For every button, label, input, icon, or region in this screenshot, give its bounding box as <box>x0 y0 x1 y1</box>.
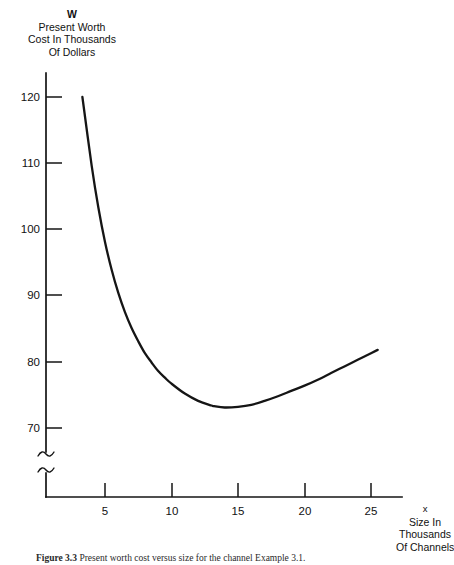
y-axis-symbol: W <box>6 8 138 21</box>
x-axis-title: x Size In Thousands Of Channels <box>396 503 454 553</box>
x-tick-label-15: 15 <box>232 505 245 517</box>
y-tick-label-110: 110 <box>22 157 40 169</box>
figure-caption-text: Present worth cost versus size for the c… <box>79 553 305 563</box>
y-axis-title-line-3: Of Dollars <box>6 46 138 59</box>
axis-break-squiggle-icon-lower <box>38 468 54 472</box>
y-tick-label-100: 100 <box>21 223 40 235</box>
x-axis-title-line-1: Size In <box>396 516 454 529</box>
y-tick-label-70: 70 <box>27 422 40 434</box>
y-tick-label-80: 80 <box>27 356 40 368</box>
present-worth-cost-chart: 120 110 100 90 80 70 5 10 15 20 25 <box>0 0 454 565</box>
y-axis-title-line-2: Cost In Thousands <box>6 33 138 46</box>
y-axis-title-line-1: Present Worth <box>6 21 138 34</box>
x-axis-title-line-2: Thousands <box>396 528 454 541</box>
y-axis-title: W Present Worth Cost In Thousands Of Dol… <box>6 8 138 58</box>
y-tick-label-90: 90 <box>27 289 40 301</box>
figure-caption: Figure 3.3 Present worth cost versus siz… <box>36 552 436 564</box>
x-tick-label-10: 10 <box>166 505 179 517</box>
cost-curve-line <box>82 97 377 408</box>
x-tick-label-5: 5 <box>102 505 108 517</box>
figure-container: 120 110 100 90 80 70 5 10 15 20 25 W Pre… <box>0 0 454 565</box>
y-tick-label-120: 120 <box>21 91 40 103</box>
figure-caption-label: Figure 3.3 <box>36 553 77 563</box>
x-axis-symbol: x <box>396 503 454 516</box>
x-tick-label-25: 25 <box>365 505 378 517</box>
x-tick-label-20: 20 <box>299 505 312 517</box>
